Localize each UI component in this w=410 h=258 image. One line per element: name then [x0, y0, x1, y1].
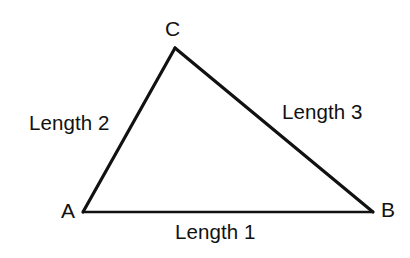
vertex-label-b: B — [381, 199, 395, 220]
edge-label-length-1: Length 1 — [175, 222, 256, 243]
vertex-label-a: A — [61, 200, 75, 221]
triangle-diagram: C A B Length 2 Length 3 Length 1 — [0, 0, 410, 258]
edge-cb-line — [175, 48, 373, 212]
edge-label-length-2: Length 2 — [29, 113, 110, 134]
edge-label-length-3: Length 3 — [282, 102, 363, 123]
vertex-label-c: C — [165, 18, 180, 39]
